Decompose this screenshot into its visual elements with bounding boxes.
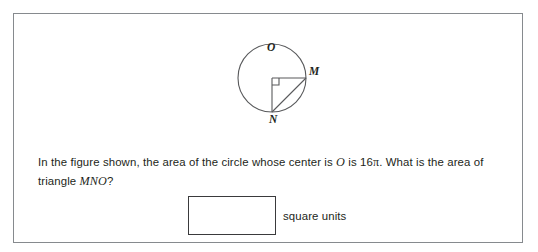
- answer-input[interactable]: [188, 196, 276, 235]
- question-prompt: In the figure shown, the area of the cir…: [38, 153, 502, 190]
- vertex-label-n: N: [269, 114, 277, 126]
- prompt-text-part-1: In the figure shown, the area of the cir…: [38, 156, 336, 168]
- vertex-label-m: M: [309, 66, 319, 78]
- question-card: O M N In the figure shown, the area of t…: [13, 13, 523, 243]
- vertex-label-o: O: [267, 42, 275, 54]
- geometry-figure: O M N: [212, 22, 342, 132]
- prompt-variable-o: O: [336, 155, 345, 169]
- prompt-text-part-2: is 16: [345, 156, 373, 168]
- right-angle-marker-icon: [272, 78, 279, 85]
- answer-row: square units: [188, 196, 346, 235]
- prompt-variable-mno: MNO: [80, 174, 107, 188]
- answer-units-label: square units: [283, 210, 346, 222]
- prompt-text-part-4: ?: [107, 175, 113, 187]
